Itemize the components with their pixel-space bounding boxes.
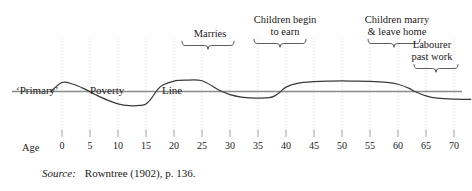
tick-label-40: 40 bbox=[276, 141, 296, 151]
source-value: Rowntree (1902), p. 136. bbox=[85, 167, 196, 179]
annotation-children-begin-to-earn: Children begin to earn bbox=[239, 14, 331, 37]
tick-label-30: 30 bbox=[220, 141, 240, 151]
axis-name-age: Age bbox=[22, 142, 40, 153]
tick-label-55: 55 bbox=[360, 141, 380, 151]
brace-children-begin-to-earn bbox=[254, 39, 306, 47]
annotation-marries: Marries bbox=[178, 28, 242, 40]
tick-label-35: 35 bbox=[248, 141, 268, 151]
tick-label-50: 50 bbox=[332, 141, 352, 151]
tick-label-15: 15 bbox=[136, 141, 156, 151]
annotation-children-marry-leave-home: Children marry & leave home bbox=[348, 14, 446, 37]
tick-label-0: 0 bbox=[52, 141, 72, 151]
axis-tick-marks bbox=[62, 130, 454, 137]
brace-marries bbox=[182, 41, 234, 49]
source-key: Source: bbox=[42, 167, 76, 179]
poverty-life-cycle-figure: ‘Primary’PovertyLine MarriesChildren beg… bbox=[0, 0, 472, 191]
tick-label-20: 20 bbox=[164, 141, 184, 151]
tick-label-65: 65 bbox=[416, 141, 436, 151]
poverty-label: Poverty bbox=[90, 84, 124, 96]
tick-label-60: 60 bbox=[388, 141, 408, 151]
source-note: Source:Rowntree (1902), p. 136. bbox=[42, 167, 195, 180]
tick-label-25: 25 bbox=[192, 141, 212, 151]
tick-label-45: 45 bbox=[304, 141, 324, 151]
brace-labourer-past-work bbox=[414, 64, 458, 72]
tick-label-10: 10 bbox=[108, 141, 128, 151]
tick-label-70: 70 bbox=[444, 141, 464, 151]
annotation-labourer-past-work: Labourer past work bbox=[396, 39, 468, 62]
primary-label: ‘Primary’ bbox=[16, 84, 59, 96]
line-label: Line bbox=[162, 84, 182, 96]
tick-label-5: 5 bbox=[80, 141, 100, 151]
